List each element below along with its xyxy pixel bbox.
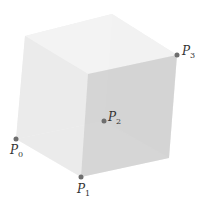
label-p0: P0: [9, 143, 23, 159]
vertex-p3: P3: [175, 44, 196, 60]
label-p3: P3: [181, 44, 195, 60]
point-marker-icon: [175, 53, 180, 58]
point-marker-icon: [14, 137, 19, 142]
point-marker-icon: [79, 175, 84, 180]
label-p1: P1: [76, 182, 90, 198]
cube-face-front-right: [81, 55, 177, 177]
cube-diagram: P0 P1 P2 P3: [0, 0, 202, 207]
vertex-p1: P1: [76, 175, 90, 199]
point-marker-icon: [102, 119, 107, 124]
